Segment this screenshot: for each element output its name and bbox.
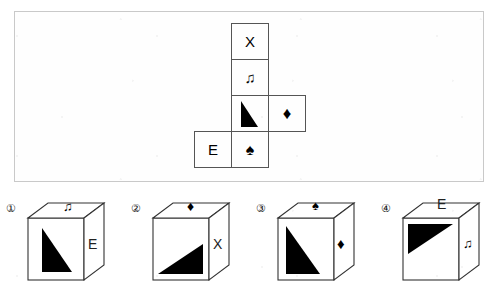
option-2-cube[interactable]: ♦ X xyxy=(145,198,245,290)
option-3-cube[interactable]: ♠ ♦ xyxy=(270,198,370,290)
diamond-icon: ♦ xyxy=(283,105,292,122)
option-3-number: ③ xyxy=(256,202,266,215)
option-2[interactable]: ② ♦ X xyxy=(125,192,250,297)
option-4-top-label: E xyxy=(437,196,446,212)
net-cell-x-label: X xyxy=(245,34,255,49)
option-2-top-diamond-icon: ♦ xyxy=(187,198,194,214)
spade-icon: ♠ xyxy=(246,142,255,158)
option-1-top-music-note-icon: ♫ xyxy=(63,199,73,214)
puzzle-stage: X ♫ ♦ E ♠ ① xyxy=(0,0,499,297)
options-row: ① ♫ E ② xyxy=(0,192,499,297)
triangle-icon xyxy=(239,100,261,128)
option-4-cube[interactable]: E ♫ xyxy=(395,198,495,290)
net-cell-triangle[interactable] xyxy=(231,95,269,132)
option-4-right-music-note-icon: ♫ xyxy=(463,236,473,251)
net-cell-spade[interactable]: ♠ xyxy=(231,131,269,168)
music-note-icon: ♫ xyxy=(244,70,255,85)
option-3[interactable]: ③ ♠ ♦ xyxy=(250,192,375,297)
option-1-right-label: E xyxy=(88,236,97,252)
net-cell-x[interactable]: X xyxy=(231,23,269,60)
option-4-number: ④ xyxy=(381,202,391,215)
option-1-cube[interactable]: ♫ E xyxy=(20,198,120,290)
option-2-right-label: X xyxy=(213,236,222,252)
net-panel: X ♫ ♦ E ♠ xyxy=(14,11,484,182)
net-cell-e[interactable]: E xyxy=(194,131,232,168)
net-cell-diamond[interactable]: ♦ xyxy=(268,95,306,132)
option-3-right-diamond-icon: ♦ xyxy=(337,235,345,252)
net-cell-note[interactable]: ♫ xyxy=(231,59,269,96)
option-2-number: ② xyxy=(131,202,141,215)
net-cell-e-label: E xyxy=(208,142,218,157)
option-3-top-spade-icon: ♠ xyxy=(312,198,319,213)
option-1-number: ① xyxy=(6,202,16,215)
option-4[interactable]: ④ E ♫ xyxy=(375,192,499,297)
option-1[interactable]: ① ♫ E xyxy=(0,192,125,297)
